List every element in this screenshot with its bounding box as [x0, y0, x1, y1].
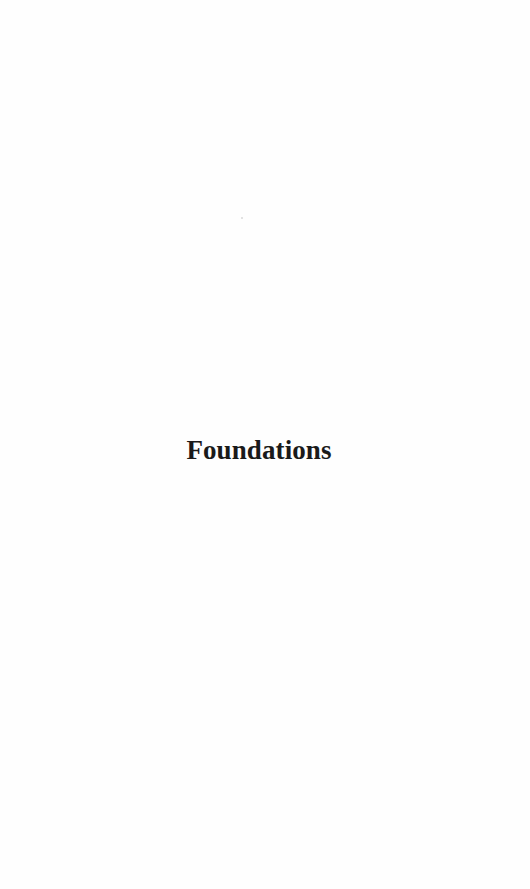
part-title: Foundations	[0, 434, 518, 466]
book-page: Foundations	[0, 0, 530, 889]
scan-speck	[241, 217, 243, 219]
